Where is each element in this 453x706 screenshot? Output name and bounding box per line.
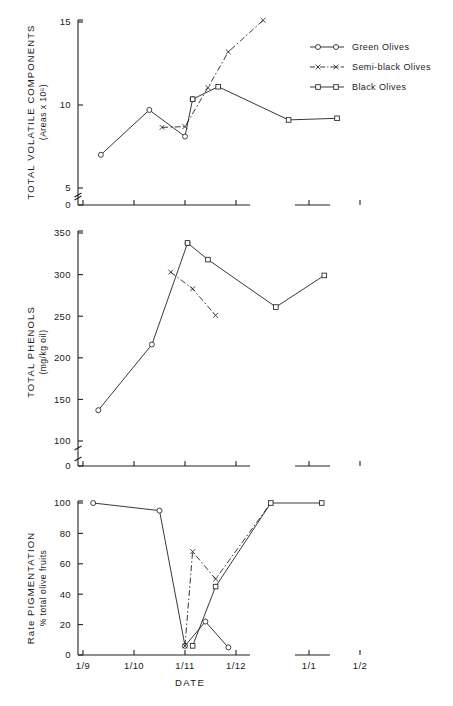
legend-label-semi_black: Semi-black Olives [352,62,431,72]
figure-container: 05101501001502002503003500204060801001/9… [0,0,453,706]
legend-marker-semi_black [316,65,321,70]
panel-2-data-point [149,342,154,347]
panel-2-data-point [206,257,211,262]
panel-3-data-point [268,501,273,506]
panel-2-data-point [168,270,173,275]
panel-1-data-point [183,134,188,139]
panel-1-data-point [190,97,195,102]
panel-2-ytick-label: 100 [54,435,71,446]
panel-3-data-point [226,645,231,650]
x-axis-tick-label-1-9: 1/9 [76,660,90,671]
x-axis-tick-label-1-1: 1/1 [302,660,316,671]
panel-1-data-point [261,18,266,23]
panel-3-ytick-label: 20 [60,619,71,630]
x-axis-tick-label-1-10: 1/10 [124,660,144,671]
panel-1-data-point [206,85,211,90]
panel-3-data-point [203,619,208,624]
panel-2-data-point [322,273,327,278]
panel-2-y-axis-units: (mg/kg oil) [38,329,48,374]
panel-3-series-line [185,503,271,646]
panel-2-series-line [188,243,325,307]
panel-1-y-axis-title: TOTAL VOLATILE COMPONENTS [25,25,36,200]
panel-1-data-point [98,152,103,157]
panel-3-ytick-label: 100 [54,497,71,508]
panel-1-ytick-label: 5 [65,182,71,193]
legend-marker-green [316,45,321,50]
panel-3-data-point [319,501,324,506]
panel-3-ytick-label: 60 [60,558,71,569]
panel-2-data-point [213,313,218,318]
panel-3-ytick-label: 40 [60,589,71,600]
panel-1-series-line [162,20,263,127]
panel-2-ytick-label: 250 [54,311,71,322]
panel-1-ytick-label: 15 [60,16,71,27]
panel-3-data-point [213,577,218,582]
panel-2-data-point [185,241,190,246]
legend-marker-green [334,45,339,50]
panel-3-series-line [193,503,322,646]
panel-1-ytick-label: 0 [65,199,71,210]
panel-1-y-axis-units: (Areas x 10⁶) [38,84,48,140]
panel-2-series-line [171,272,216,315]
panel-3-ytick-label: 80 [60,528,71,539]
x-axis-tick-label-1-2: 1/2 [353,660,367,671]
panel-3-data-point [157,508,162,513]
panel-2-ytick-label: 0 [65,460,71,471]
panel-1-data-point [147,107,152,112]
panel-2-ytick-label: 300 [54,269,71,280]
panel-1-data-point [226,49,231,54]
panel-3-data-point [190,644,195,649]
panel-3-series-line [93,503,228,647]
panel-2-series-line [98,243,187,410]
three-panel-line-chart: 05101501001502002503003500204060801001/9… [0,0,453,706]
legend-marker-black [334,85,339,90]
legend-label-green: Green Olives [352,42,409,52]
panel-2-ytick-label: 150 [54,394,71,405]
panel-1-data-point [286,118,291,123]
panel-3-y-axis-units: % total olive fruits [38,550,48,627]
panel-1-data-point [335,116,340,121]
panel-3-data-point [213,584,218,589]
panel-2-data-point [274,305,279,310]
legend-marker-black [316,85,321,90]
panel-1-series-line [193,87,337,120]
panel-3-y-axis-title: Rate PIGMENTATION [25,532,36,644]
x-axis-title: DATE [175,677,205,688]
panel-2-ytick-label: 350 [54,227,71,238]
panel-2-ytick-label: 200 [54,352,71,363]
panel-3-ytick-label: 0 [65,649,71,660]
legend-label-black: Black Olives [352,82,406,92]
x-axis-tick-label-1-11: 1/11 [175,660,194,671]
panel-2-y-axis-title: TOTAL PHENOLS [25,306,36,398]
panel-1-ytick-label: 10 [60,99,71,110]
panel-1-data-point [216,84,221,89]
panel-2-data-point [96,408,101,413]
x-axis-tick-label-1-12: 1/12 [226,660,246,671]
panel-3-data-point [91,501,96,506]
panel-2-data-point [190,286,195,291]
